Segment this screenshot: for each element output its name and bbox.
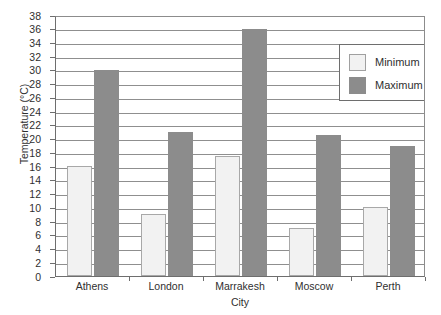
x-axis-tick <box>129 277 130 281</box>
y-axis-tick <box>50 180 55 181</box>
y-axis-tick <box>50 263 55 264</box>
y-axis-tick <box>50 208 55 209</box>
y-axis-tick <box>50 57 55 58</box>
x-axis-tick <box>277 277 278 281</box>
y-axis-tick <box>50 70 55 71</box>
y-axis-tick <box>50 112 55 113</box>
bar-marrakesh-minimum <box>215 156 240 276</box>
y-axis-tick <box>50 235 55 236</box>
bar-london-maximum <box>168 132 193 276</box>
bar-athens-maximum <box>94 70 119 276</box>
y-axis-tick-label: 24 <box>29 107 41 118</box>
y-axis-tick <box>50 139 55 140</box>
y-axis-tick-label: 14 <box>29 175 41 186</box>
y-axis-tick-label: 20 <box>29 134 41 145</box>
y-axis-tick <box>50 222 55 223</box>
legend-swatch-maximum <box>349 77 366 94</box>
bar-marrakesh-maximum <box>242 29 267 276</box>
bar-london-minimum <box>141 214 166 276</box>
y-axis-tick-label: 22 <box>29 120 41 131</box>
x-axis-tick <box>425 277 426 281</box>
y-axis-tick <box>50 16 55 17</box>
legend-label-minimum: Minimum <box>375 56 420 68</box>
y-axis-tick-label: 32 <box>29 52 41 63</box>
gridline <box>56 30 424 31</box>
y-axis-tick-label: 10 <box>29 203 41 214</box>
y-axis-tick <box>50 277 55 278</box>
bar-athens-minimum <box>67 166 92 276</box>
y-axis-tick-label: 38 <box>29 11 41 22</box>
y-axis-tick-label: 36 <box>29 24 41 35</box>
x-axis-title: City <box>55 296 425 308</box>
y-axis-tick <box>50 98 55 99</box>
x-axis-tick-label: Athens <box>76 280 109 292</box>
x-axis-tick-label: Moscow <box>295 280 334 292</box>
legend-label-maximum: Maximum <box>375 79 423 91</box>
legend-entry-minimum: Minimum <box>349 53 420 71</box>
legend-swatch-minimum <box>349 54 366 71</box>
y-axis-tick-label: 2 <box>35 258 41 269</box>
x-axis-tick-label: Perth <box>375 280 400 292</box>
bar-moscow-maximum <box>316 135 341 276</box>
plot-area: Minimum Maximum <box>55 16 425 277</box>
y-axis-tick-label: 12 <box>29 189 41 200</box>
y-axis-tick <box>50 167 55 168</box>
y-axis-tick-label: 16 <box>29 162 41 173</box>
y-axis-tick <box>50 84 55 85</box>
y-axis-tick <box>50 29 55 30</box>
y-axis-tick-label: 8 <box>35 217 41 228</box>
x-axis-tick <box>203 277 204 281</box>
y-axis-tick-labels: 02468101214161820222426283032343638 <box>0 16 49 277</box>
legend: Minimum Maximum <box>339 44 425 101</box>
y-axis-tick-label: 0 <box>35 272 41 283</box>
x-axis-tick-labels: AthensLondonMarrakeshMoscowPerth <box>55 280 425 294</box>
bar-moscow-minimum <box>289 228 314 276</box>
x-axis-tick <box>351 277 352 281</box>
y-axis-tick <box>50 194 55 195</box>
y-axis-tick-label: 34 <box>29 38 41 49</box>
y-axis-tick-label: 4 <box>35 244 41 255</box>
y-axis-tick-label: 6 <box>35 230 41 241</box>
legend-entry-maximum: Maximum <box>349 76 423 94</box>
y-axis-tick <box>50 153 55 154</box>
y-axis-tick-label: 28 <box>29 79 41 90</box>
x-axis-tick-label: London <box>148 280 183 292</box>
y-axis-tick-label: 18 <box>29 148 41 159</box>
y-axis-tick <box>50 43 55 44</box>
bar-chart: Temperature (°C) 02468101214161820222426… <box>0 0 441 315</box>
bar-perth-minimum <box>363 207 388 276</box>
y-axis-tick-label: 30 <box>29 65 41 76</box>
y-axis-tick <box>50 249 55 250</box>
y-axis-tick-label: 26 <box>29 93 41 104</box>
bar-perth-maximum <box>390 146 415 277</box>
x-axis-tick-label: Marrakesh <box>215 280 265 292</box>
y-axis-tick <box>50 125 55 126</box>
